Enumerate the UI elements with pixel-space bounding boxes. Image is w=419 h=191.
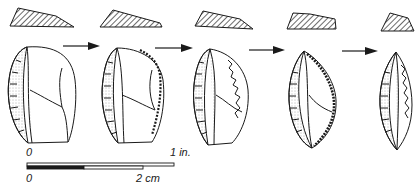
reduction-sequence-diagram: [0, 0, 419, 191]
arrow-3-to-4: [249, 46, 285, 54]
scale-inch-zero: 0: [26, 146, 32, 158]
cross-section-3: [195, 11, 253, 29]
scale-inch-label: 1 in.: [170, 146, 191, 158]
cross-section-1: [10, 8, 74, 27]
arrow-4-to-5: [342, 47, 378, 55]
cross-section-2: [100, 10, 162, 27]
scale-cm-zero: 0: [26, 172, 32, 184]
cross-section-5: [381, 13, 414, 31]
scale-cm-label: 2 cm: [136, 172, 160, 184]
plan-view-1: [8, 47, 76, 143]
plan-view-5: [380, 52, 412, 150]
arrow-1-to-2: [63, 42, 100, 50]
arrow-2-to-3: [155, 44, 193, 52]
plan-view-3: [194, 49, 249, 145]
cross-section-4: [287, 13, 336, 29]
scale-bar: [27, 163, 174, 169]
plan-view-2: [102, 48, 164, 143]
plan-view-4: [289, 51, 336, 148]
